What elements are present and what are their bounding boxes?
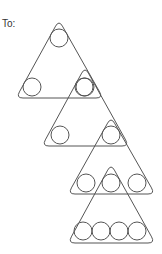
triangle-rack-4	[70, 167, 152, 243]
circle-slot	[76, 78, 94, 96]
circle-slot	[77, 174, 95, 192]
circle-slot	[75, 78, 93, 96]
triangle-outline	[70, 167, 152, 243]
circle-slot	[102, 174, 120, 192]
triangle-rack-1	[18, 23, 100, 98]
circle-slot	[23, 78, 41, 96]
triangle-outline	[18, 23, 100, 98]
triangle-outline	[70, 120, 152, 194]
circle-slot	[128, 222, 146, 240]
circle-slot	[51, 126, 69, 144]
circle-slot	[110, 222, 128, 240]
triangle-rack-2	[44, 70, 126, 146]
triangle-rack-3	[70, 120, 152, 194]
circle-slot	[50, 29, 68, 47]
circle-slot	[74, 222, 92, 240]
circle-slot	[128, 174, 146, 192]
circle-slot	[92, 222, 110, 240]
triangle-outline	[44, 70, 126, 146]
triangle-diagram	[0, 0, 162, 254]
